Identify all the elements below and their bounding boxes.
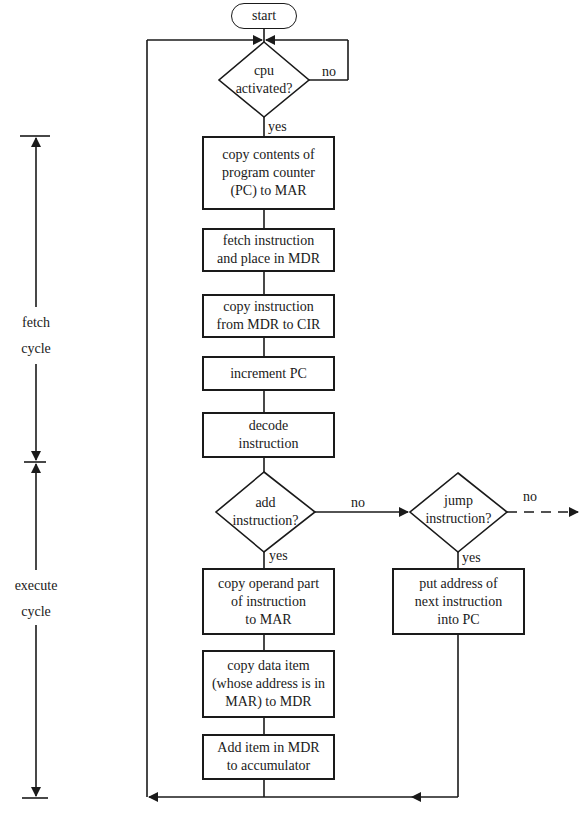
process-fetch-instruction: fetch instruction and place in MDR — [202, 228, 335, 272]
cpu-yes-label: yes — [268, 118, 287, 136]
add-yes-label: yes — [269, 547, 288, 565]
cpu-no-label: no — [322, 63, 336, 81]
process-copy-data-item: copy data item (whose address is in MAR)… — [202, 650, 335, 718]
process-put-address: put address of next instruction into PC — [392, 568, 525, 635]
execute-cycle-label: execute cycle — [0, 573, 72, 625]
decision-jump-instruction: jump instruction? — [410, 492, 507, 528]
process-add-item: Add item in MDR to accumulator — [202, 734, 335, 780]
process-copy-pc-to-mar: copy contents of program counter (PC) to… — [202, 136, 335, 210]
process-copy-instruction: copy instruction from MDR to CIR — [202, 294, 335, 338]
start-label: start — [252, 8, 276, 24]
process-increment-pc: increment PC — [202, 356, 335, 391]
add-no-label: no — [351, 494, 365, 512]
jump-yes-label: yes — [462, 549, 481, 567]
fetch-cycle-label: fetch cycle — [6, 310, 66, 362]
process-copy-operand: copy operand part of instruction to MAR — [202, 568, 335, 635]
jump-no-label: no — [523, 488, 537, 506]
decision-cpu-activated: cpu activated? — [219, 62, 309, 98]
decision-add-instruction: add instruction? — [216, 494, 315, 530]
process-decode: decode instruction — [202, 412, 335, 458]
start-terminal: start — [231, 3, 297, 29]
